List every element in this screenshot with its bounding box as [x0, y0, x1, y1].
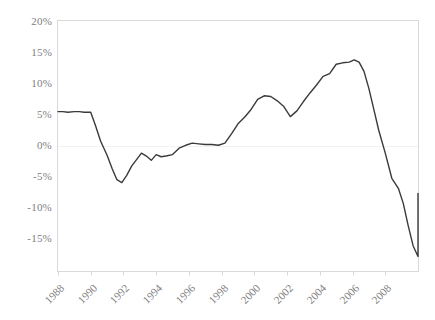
- chart-container: 20% 15% 10% 5% 0% -5% -10% -15% 19881990…: [0, 0, 435, 320]
- x-tick-label: 1988: [0, 281, 66, 320]
- x-axis-labels: 1988199019921994199619982000200220042006…: [0, 0, 435, 320]
